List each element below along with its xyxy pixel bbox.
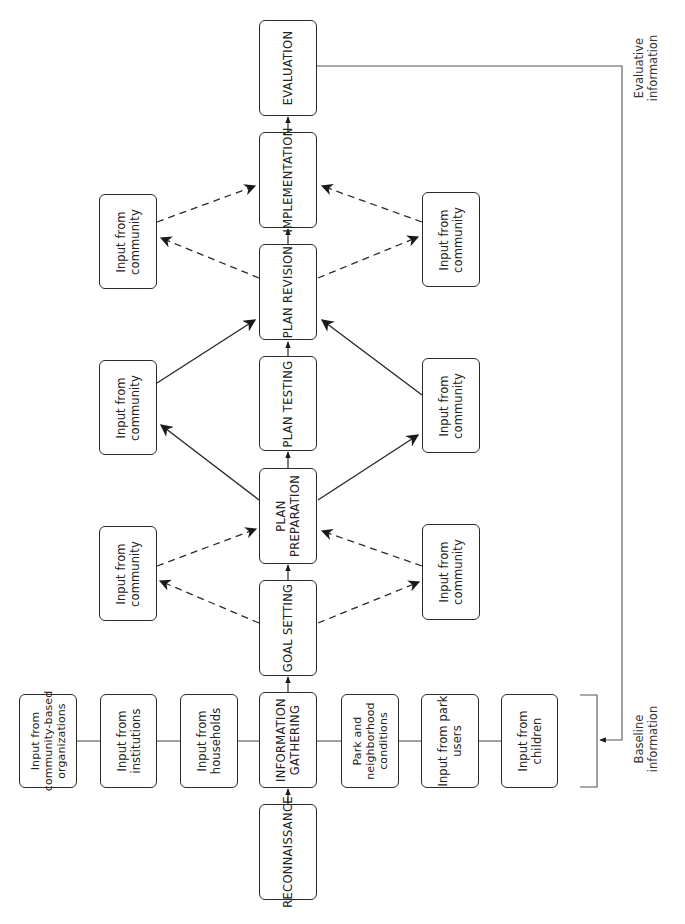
info-input-community-organizations: Input from community-based organizations <box>19 694 77 788</box>
info-input-park-users: Input from park users <box>421 694 479 788</box>
stage-implementation: IMPLEMENTATION <box>259 132 317 228</box>
info-input-label: Park and neighborhood conditions <box>351 702 390 779</box>
park-planning-process-diagram: EVALUATION IMPLEMENTATION PLAN REVISION … <box>0 0 685 924</box>
stage-information-gathering: INFORMATION GATHERING <box>259 692 317 788</box>
community-input-left-middle: Input from community <box>99 360 157 455</box>
info-input-label: Input from households <box>195 708 223 775</box>
info-input-institutions: Input from institutions <box>100 694 157 788</box>
evaluative-information-label: Evaluative information <box>632 35 660 101</box>
community-input-label: Input from community <box>114 375 142 441</box>
community-input-right-top: Input from community <box>422 192 480 287</box>
info-input-children: Input from children <box>501 694 558 788</box>
stage-label: RECONNAISSANCE <box>281 796 295 908</box>
community-input-left-bottom: Input from community <box>99 526 157 621</box>
community-input-right-bottom: Input from community <box>422 524 480 620</box>
baseline-bracket <box>580 695 597 787</box>
stage-label: IMPLEMENTATION <box>281 127 295 232</box>
stage-evaluation: EVALUATION <box>259 20 317 116</box>
community-input-label: Input from community <box>437 373 465 439</box>
stage-plan-revision: PLAN REVISION <box>259 244 317 340</box>
stage-plan-preparation: PLAN PREPARATION <box>259 468 317 564</box>
stage-label: PLAN PREPARATION <box>274 475 302 557</box>
community-input-label: Input from community <box>114 541 142 607</box>
stage-label: EVALUATION <box>281 31 295 106</box>
community-input-left-top: Input from community <box>99 194 157 289</box>
stage-label: PLAN REVISION <box>281 246 295 339</box>
stage-label: INFORMATION GATHERING <box>274 698 302 782</box>
stage-reconnaissance: RECONNAISSANCE <box>259 804 317 900</box>
info-input-park-neighborhood-conditions: Park and neighborhood conditions <box>341 694 399 788</box>
stage-goal-setting: GOAL SETTING <box>259 580 317 676</box>
community-input-label: Input from community <box>437 539 465 605</box>
info-input-label: Input from park users <box>436 695 464 786</box>
stage-plan-testing: PLAN TESTING <box>259 356 317 451</box>
info-input-label: Input from community-based organizations <box>29 691 68 792</box>
stage-label: PLAN TESTING <box>281 360 295 447</box>
info-input-label: Input from children <box>516 710 544 771</box>
stage-label: GOAL SETTING <box>281 584 295 673</box>
community-input-label: Input from community <box>437 207 465 273</box>
community-input-right-middle: Input from community <box>422 358 480 453</box>
baseline-information-label: Baseline information <box>632 706 660 772</box>
info-input-households: Input from households <box>180 694 238 788</box>
community-input-label: Input from community <box>114 209 142 275</box>
info-input-label: Input from institutions <box>115 708 143 773</box>
